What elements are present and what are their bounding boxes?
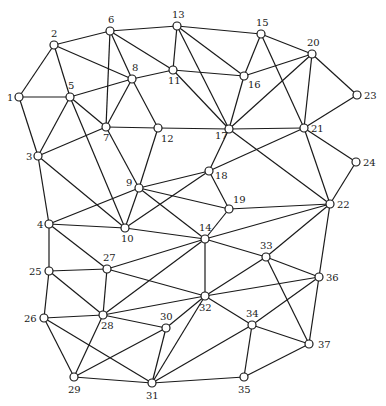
node-29 bbox=[70, 373, 78, 381]
node-label-29: 29 bbox=[68, 384, 81, 395]
edge-29-31 bbox=[74, 377, 152, 383]
edge-10-18 bbox=[125, 171, 209, 228]
edge-9-12 bbox=[139, 128, 158, 188]
node-20 bbox=[308, 50, 316, 58]
edge-4-27 bbox=[49, 224, 107, 269]
node-36 bbox=[315, 273, 323, 281]
edge-32-33 bbox=[205, 257, 266, 296]
edge-3-5 bbox=[38, 97, 70, 156]
node-30 bbox=[162, 324, 170, 332]
node-label-10: 10 bbox=[121, 233, 134, 244]
edge-9-10 bbox=[125, 188, 139, 228]
edge-8-12 bbox=[132, 79, 158, 128]
edge-11-13 bbox=[173, 26, 177, 70]
node-18 bbox=[205, 167, 213, 175]
edge-21-22 bbox=[304, 128, 330, 204]
node-label-30: 30 bbox=[160, 311, 173, 322]
node-22 bbox=[326, 200, 334, 208]
node-label-4: 4 bbox=[37, 219, 43, 230]
node-27 bbox=[103, 265, 111, 273]
node-label-2: 2 bbox=[51, 28, 57, 39]
node-7 bbox=[102, 123, 110, 131]
node-34 bbox=[248, 321, 256, 329]
node-10 bbox=[121, 224, 129, 232]
node-label-27: 27 bbox=[103, 252, 116, 263]
node-label-3: 3 bbox=[26, 151, 32, 162]
node-label-28: 28 bbox=[101, 320, 114, 331]
edge-11-16 bbox=[173, 70, 244, 76]
edge-32-34 bbox=[205, 296, 252, 325]
edge-26-28 bbox=[44, 315, 103, 318]
edge-34-36 bbox=[252, 277, 319, 325]
edge-9-18 bbox=[139, 171, 209, 188]
node-8 bbox=[128, 75, 136, 83]
node-label-20: 20 bbox=[307, 37, 320, 48]
edge-2-6 bbox=[54, 31, 110, 45]
node-label-19: 19 bbox=[233, 194, 246, 205]
edge-14-22 bbox=[205, 204, 330, 239]
node-35 bbox=[240, 373, 248, 381]
edge-6-13 bbox=[110, 26, 177, 31]
edge-6-7 bbox=[106, 31, 110, 127]
edge-3-7 bbox=[38, 127, 106, 156]
node-14 bbox=[201, 235, 209, 243]
edge-27-32 bbox=[107, 269, 205, 296]
node-21 bbox=[300, 124, 308, 132]
node-31 bbox=[148, 379, 156, 387]
edge-13-15 bbox=[177, 26, 261, 34]
node-24 bbox=[352, 158, 360, 166]
edge-30-31 bbox=[152, 328, 166, 383]
node-label-32: 32 bbox=[199, 302, 212, 313]
edge-4-10 bbox=[49, 224, 125, 228]
node-32 bbox=[201, 292, 209, 300]
edge-28-32 bbox=[103, 296, 205, 315]
node-26 bbox=[40, 314, 48, 322]
edge-4-9 bbox=[49, 188, 139, 224]
node-25 bbox=[45, 267, 53, 275]
edge-20-21 bbox=[304, 54, 312, 128]
node-label-15: 15 bbox=[256, 17, 269, 28]
edge-35-37 bbox=[244, 344, 309, 377]
edge-5-7 bbox=[70, 97, 106, 127]
node-label-26: 26 bbox=[24, 313, 37, 324]
edge-22-36 bbox=[319, 204, 330, 277]
node-9 bbox=[135, 184, 143, 192]
node-label-1: 1 bbox=[7, 92, 13, 103]
node-6 bbox=[106, 27, 114, 35]
edge-2-8 bbox=[54, 45, 132, 79]
node-16 bbox=[240, 72, 248, 80]
node-label-13: 13 bbox=[172, 9, 185, 20]
edge-17-22 bbox=[229, 129, 330, 204]
node-1 bbox=[15, 93, 23, 101]
edge-13-16 bbox=[177, 26, 244, 76]
node-5 bbox=[66, 93, 74, 101]
edge-15-16 bbox=[244, 34, 261, 76]
node-label-5: 5 bbox=[68, 80, 74, 91]
edge-7-8 bbox=[106, 79, 132, 127]
node-label-33: 33 bbox=[260, 240, 273, 251]
node-label-11: 11 bbox=[168, 75, 181, 86]
node-label-34: 34 bbox=[246, 308, 259, 319]
edge-31-34 bbox=[152, 325, 252, 383]
node-label-8: 8 bbox=[132, 62, 138, 73]
edge-29-30 bbox=[74, 328, 166, 377]
edge-33-37 bbox=[266, 257, 309, 344]
node-label-35: 35 bbox=[238, 384, 251, 395]
node-label-7: 7 bbox=[103, 132, 109, 143]
edge-5-10 bbox=[70, 97, 125, 228]
edge-7-9 bbox=[106, 127, 139, 188]
edge-36-37 bbox=[309, 277, 319, 344]
node-label-37: 37 bbox=[318, 339, 331, 350]
edge-34-35 bbox=[244, 325, 252, 377]
node-label-14: 14 bbox=[199, 222, 212, 233]
node-4 bbox=[45, 220, 53, 228]
edge-7-12 bbox=[106, 127, 158, 128]
node-33 bbox=[262, 253, 270, 261]
edge-28-29 bbox=[74, 315, 103, 377]
edge-1-2 bbox=[19, 45, 54, 97]
node-15 bbox=[257, 30, 265, 38]
node-label-31: 31 bbox=[146, 390, 159, 401]
node-label-24: 24 bbox=[363, 157, 376, 168]
node-37 bbox=[305, 340, 313, 348]
node-2 bbox=[50, 41, 58, 49]
